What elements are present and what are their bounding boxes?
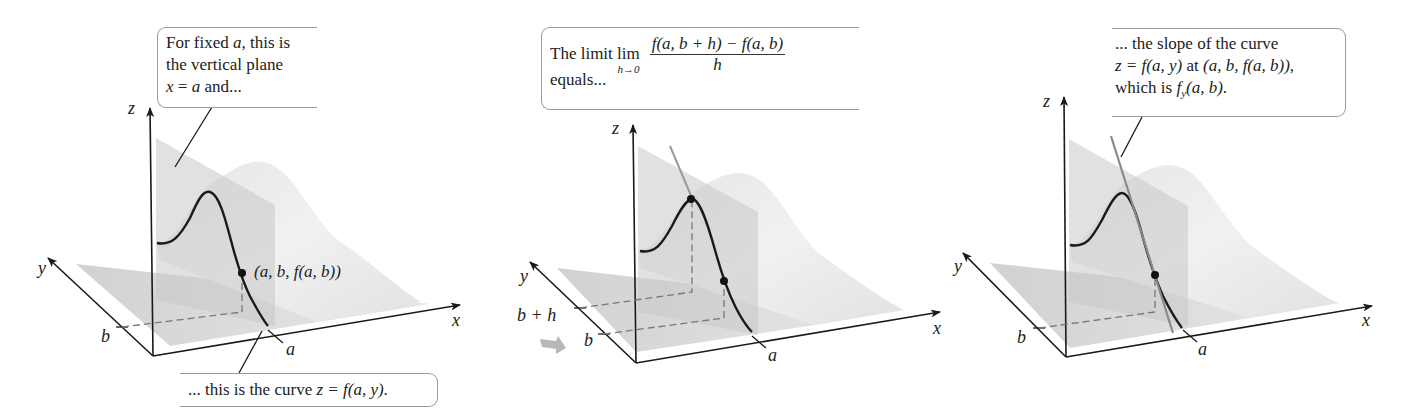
- y-axis-label: y: [954, 256, 962, 277]
- limit-operator: limh→0: [617, 44, 640, 75]
- callout-leader-bottom: [239, 331, 262, 373]
- point-b: [720, 277, 728, 285]
- panel-2: [530, 125, 940, 363]
- x-axis-label: x: [1362, 310, 1370, 331]
- x-axis-label: x: [933, 318, 941, 339]
- b-label: b: [1017, 327, 1026, 348]
- panel-3: [963, 97, 1372, 357]
- b-label: b: [101, 326, 110, 347]
- callout-var-a: a: [233, 33, 242, 52]
- b-label: b: [584, 330, 593, 351]
- gray-direction-arrow: [540, 336, 566, 354]
- callout-text: The limit: [550, 44, 617, 63]
- point-b-plus-h: [687, 195, 695, 203]
- point-a-b-f: [1151, 271, 1159, 279]
- difference-quotient: f(a, b + h) − f(a, b)h: [650, 34, 786, 75]
- a-label: a: [1198, 339, 1207, 360]
- lim-subscript: h→0: [617, 64, 640, 75]
- callout-slope: ... the slope of the curve z = f(a, y) a…: [1112, 28, 1346, 117]
- callout-text: the vertical plane: [166, 54, 309, 76]
- callout-text: ... the slope of the curve: [1115, 33, 1337, 55]
- partial-args: (a, b): [1186, 78, 1223, 97]
- callout-text: For fixed: [166, 33, 233, 52]
- point-a-b-f: [238, 269, 246, 277]
- numerator: f(a, b + h) − f(a, b): [650, 34, 786, 55]
- lim-text: lim: [617, 44, 640, 63]
- callout-text: .: [384, 380, 388, 399]
- callout-text: and...: [200, 77, 242, 96]
- callout-limit: The limit limh→0f(a, b + h) − f(a, b)h e…: [541, 27, 859, 110]
- a-label: a: [768, 345, 777, 366]
- z-axis-label: z: [612, 118, 619, 139]
- y-axis-label: y: [520, 266, 528, 287]
- callout-text: =: [174, 77, 192, 96]
- b-plus-h-label: b + h: [517, 305, 556, 326]
- callout-formula: z = f(a, y): [316, 380, 383, 399]
- callout-vertical-plane: For fixed a, this is the vertical plane …: [157, 27, 317, 108]
- callout-text: which is: [1115, 78, 1176, 97]
- callout-text: .: [1223, 78, 1227, 97]
- callout-leader-top: [175, 107, 212, 167]
- a-label: a: [286, 339, 295, 360]
- callout-point: (a, b, f(a, b)): [1203, 56, 1290, 75]
- callout-leader: [1121, 117, 1142, 157]
- z-axis-label: z: [128, 98, 135, 119]
- point-label: (a, b, f(a, b)): [254, 262, 341, 282]
- callout-text: ... this is the curve: [188, 380, 316, 399]
- callout-text: at: [1182, 56, 1203, 75]
- callout-formula: z = f(a, y): [1115, 56, 1182, 75]
- callout-text: ,: [1290, 56, 1294, 75]
- callout-var-a: a: [192, 77, 201, 96]
- y-axis-label: y: [38, 258, 46, 279]
- callout-var-x: x: [166, 77, 174, 96]
- z-axis-label: z: [1043, 91, 1050, 112]
- denominator: h: [650, 55, 786, 75]
- callout-curve: ... this is the curve z = f(a, y).: [180, 373, 438, 407]
- callout-text: , this is: [242, 33, 291, 52]
- x-axis-label: x: [452, 310, 460, 331]
